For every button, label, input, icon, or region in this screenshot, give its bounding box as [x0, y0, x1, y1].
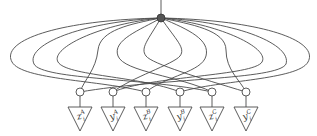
leaf-node-z-A: zAi — [68, 107, 92, 131]
edges-group — [10, 18, 309, 92]
root-node — [157, 14, 165, 22]
leaf-triangles-group: zAiyAizBiyBizCiyCi — [68, 107, 258, 131]
stems-group — [80, 96, 246, 107]
edge-curve — [146, 18, 207, 92]
join-node — [208, 88, 216, 96]
edge-curve — [161, 18, 246, 92]
leaf-node-y-C: yCi — [234, 107, 258, 131]
tree-diagram: zAiyAizBiyBizCiyCi — [0, 0, 317, 136]
edge-curve — [80, 18, 161, 92]
join-node — [109, 88, 117, 96]
leaf-node-z-B: zBi — [134, 107, 158, 131]
leaf-node-y-B: yBi — [168, 107, 192, 131]
join-nodes-group — [76, 88, 250, 96]
leaf-node-y-A: yAi — [101, 107, 125, 131]
join-node — [142, 88, 150, 96]
edge-curve — [80, 18, 286, 92]
join-node — [242, 88, 250, 96]
join-node — [76, 88, 84, 96]
join-node — [176, 88, 184, 96]
leaf-node-z-C: zCi — [200, 107, 224, 131]
